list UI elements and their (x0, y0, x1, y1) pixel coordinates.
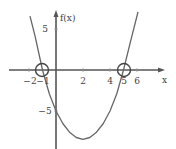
y-tick-neg5: −5 (38, 106, 52, 116)
x-tick-4: 4 (107, 76, 113, 86)
x-tick-neg2: −2 (23, 76, 36, 86)
y-axis-arrow-icon (54, 10, 59, 17)
x-tick-5: 5 (121, 76, 127, 86)
x-tick-2: 2 (80, 76, 86, 86)
y-tick-5: 5 (42, 24, 48, 34)
x-axis-label: x (162, 75, 167, 85)
x-tick-6: 6 (134, 76, 140, 86)
y-axis-label: f(x) (60, 13, 75, 23)
x-axis-arrow-icon (158, 68, 165, 73)
function-graph: f(x) x 5 −5 −2 −1 2 4 5 6 (0, 0, 176, 149)
x-tick-neg1: −1 (36, 76, 49, 86)
